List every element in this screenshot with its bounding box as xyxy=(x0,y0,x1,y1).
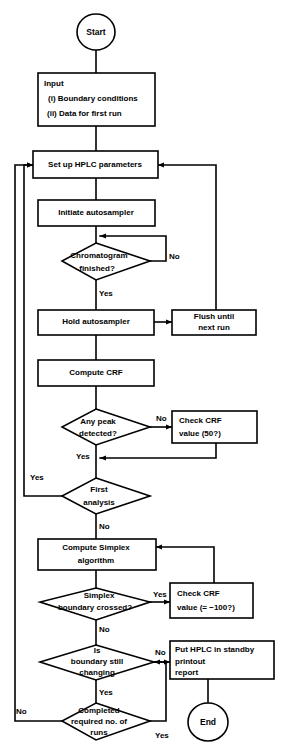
node-input[interactable]: Input (i) Boundary conditions (ii) Data … xyxy=(38,73,155,126)
node-input-line2: (i) Boundary conditions xyxy=(48,94,138,103)
node-check-crf-50-line2: value (50?) xyxy=(179,429,221,438)
edge-completedruns-no-rail xyxy=(15,165,62,721)
edge-label-boundarycrossed-yes: Yes xyxy=(153,590,167,599)
node-compute-simplex[interactable]: Compute Simplex algorithm xyxy=(38,539,156,570)
edge-label-anypeak-yes: Yes xyxy=(76,452,90,461)
node-check-crf-minus100-line1: Check CRF xyxy=(177,589,220,598)
flowchart-svg: Start Input (i) Boundary conditions (ii)… xyxy=(0,0,285,756)
edge-label-boundarychanging-no: No xyxy=(155,648,166,657)
node-any-peak-detected[interactable]: Any peak detected? xyxy=(62,409,150,445)
node-any-peak-line1: Any peak xyxy=(80,417,116,426)
node-flush-line2: next run xyxy=(198,323,230,332)
node-flush-until-next-run[interactable]: Flush until next run xyxy=(172,310,256,335)
node-boundary-changing-line3: changing xyxy=(79,668,115,677)
edge-label-anypeak-no: No xyxy=(156,414,167,423)
node-check-crf-50[interactable]: Check CRF value (50?) xyxy=(172,411,257,443)
node-setup-hplc-label: Set up HPLC parameters xyxy=(48,160,142,169)
node-completed-runs-line1: Completed xyxy=(78,706,119,715)
node-start-label: Start xyxy=(86,27,106,37)
node-boundary-changing-line2: boundary still xyxy=(71,657,123,666)
node-simplex-boundary-crossed[interactable]: Simplex boundary crossed? xyxy=(40,588,150,620)
node-simplex-boundary-line1: Simplex xyxy=(84,591,115,600)
edge-checkcrf100-feedback xyxy=(156,547,214,583)
edge-label-firstanalysis-no: No xyxy=(99,522,110,531)
node-standby-line1: Put HPLC in standby xyxy=(175,645,255,654)
edge-label-completedruns-yes: Yes xyxy=(155,731,169,740)
node-check-crf-minus100-line2: value (= −100?) xyxy=(177,603,235,612)
node-put-hplc-standby[interactable]: Put HPLC in standby printout report xyxy=(170,641,274,679)
node-input-line3: (ii) Data for first run xyxy=(47,109,122,118)
node-compute-simplex-line1: Compute Simplex xyxy=(62,543,130,552)
node-standby-line3: report xyxy=(175,668,198,677)
edge-label-boundarycrossed-no: No xyxy=(99,625,110,634)
flowchart-canvas: Start Input (i) Boundary conditions (ii)… xyxy=(0,0,285,756)
node-chromatogram-finished[interactable]: Chromatogram finished? xyxy=(62,243,150,280)
node-first-analysis-line2: analysis xyxy=(83,498,115,507)
node-first-analysis-line1: First xyxy=(90,485,108,494)
node-completed-runs-line2: required no. of xyxy=(71,717,127,726)
node-end[interactable]: End xyxy=(188,703,228,741)
node-chromatogram-finished-line2: finished? xyxy=(79,264,115,273)
edge-label-chromatogram-yes: Yes xyxy=(99,289,113,298)
node-standby-line2: printout xyxy=(175,657,206,666)
node-check-crf-minus100[interactable]: Check CRF value (= −100?) xyxy=(170,583,253,618)
node-completed-runs-line3: runs xyxy=(90,728,108,737)
edge-label-boundarychanging-yes: Yes xyxy=(99,688,113,697)
edge-label-completedruns-no: No xyxy=(16,707,27,716)
node-first-analysis[interactable]: First analysis xyxy=(62,478,150,514)
node-chromatogram-finished-line1: Chromatogram xyxy=(70,251,127,260)
node-flush-line1: Flush until xyxy=(194,312,234,321)
node-simplex-boundary-line2: boundary crossed? xyxy=(58,603,132,612)
node-completed-required-runs[interactable]: Completed required no. of runs xyxy=(62,703,150,740)
node-setup-hplc[interactable]: Set up HPLC parameters xyxy=(33,151,158,178)
node-initiate-autosampler-label: Initiate autosampler xyxy=(58,208,134,217)
node-compute-simplex-line2: algorithm xyxy=(78,556,114,565)
node-boundary-still-changing[interactable]: Is boundary still changing xyxy=(40,645,154,680)
edge-checkcrf50-feedback xyxy=(100,443,216,458)
edge-label-chromatogram-no: No xyxy=(169,252,180,261)
node-any-peak-line2: detected? xyxy=(79,429,117,438)
node-hold-autosampler-label: Hold autosampler xyxy=(62,317,130,326)
node-initiate-autosampler[interactable]: Initiate autosampler xyxy=(38,200,155,226)
node-input-line1: Input xyxy=(44,79,64,88)
node-hold-autosampler[interactable]: Hold autosampler xyxy=(38,310,154,335)
edge-completedruns-yes xyxy=(150,662,166,721)
node-compute-crf-label: Compute CRF xyxy=(69,368,122,377)
node-end-label: End xyxy=(200,717,216,727)
node-check-crf-50-line1: Check CRF xyxy=(179,416,222,425)
node-boundary-changing-line1: Is xyxy=(94,646,101,655)
edge-label-firstanalysis-yes: Yes xyxy=(30,473,44,482)
node-start[interactable]: Start xyxy=(77,14,115,50)
node-compute-crf[interactable]: Compute CRF xyxy=(38,360,154,386)
